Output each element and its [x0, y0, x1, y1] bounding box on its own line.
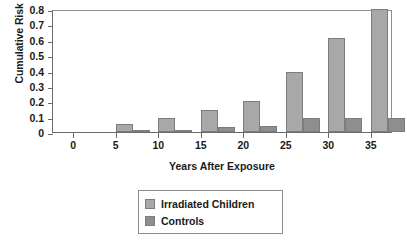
x-axis-tick-label: 35 — [351, 140, 391, 151]
bar-irradiated-children-30 — [328, 38, 345, 132]
y-axis-tick-label: 0.7 — [4, 20, 44, 31]
y-axis-tick-label: 0.8 — [4, 5, 44, 16]
x-axis-tick — [243, 133, 244, 138]
plot-area — [52, 10, 392, 133]
y-axis-tick-label: 0.3 — [4, 82, 44, 93]
x-axis-title: Years After Exposure — [52, 160, 392, 172]
x-axis-tick-label: 0 — [53, 140, 93, 151]
x-axis-tick — [286, 133, 287, 138]
y-axis-tick-label: 0 — [4, 128, 44, 139]
x-axis-tick — [201, 133, 202, 138]
bar-irradiated-children-25 — [286, 72, 303, 132]
y-axis-tick-label: 0.4 — [4, 67, 44, 78]
y-axis-tick-label: 0.5 — [4, 51, 44, 62]
bar-irradiated-children-35 — [371, 9, 388, 132]
x-axis-tick — [158, 133, 159, 138]
bar-irradiated-children-10 — [158, 118, 175, 132]
chart-legend: Irradiated Children Controls — [138, 190, 283, 234]
x-axis-tick-label: 20 — [223, 140, 263, 151]
y-axis-tick — [48, 88, 53, 89]
x-axis-tick-label: 25 — [266, 140, 306, 151]
y-axis-tick-label: 0.6 — [4, 36, 44, 47]
bar-irradiated-children-15 — [201, 110, 218, 132]
bar-irradiated-children-20 — [243, 101, 260, 132]
x-axis-tick — [73, 133, 74, 138]
legend-item-controls: Controls — [145, 213, 275, 228]
x-axis-tick-label: 30 — [308, 140, 348, 151]
x-axis-tick — [116, 133, 117, 138]
x-axis-tick-label: 5 — [96, 140, 136, 151]
bar-controls-25 — [303, 118, 320, 132]
bar-irradiated-children-5 — [116, 124, 133, 132]
chart-figure: Cumulative Risk (%) 05101520253035 Years… — [0, 0, 407, 240]
legend-swatch-icon — [145, 199, 155, 209]
bar-controls-5 — [133, 130, 150, 132]
bar-controls-10 — [175, 130, 192, 132]
y-axis-tick — [48, 26, 53, 27]
bar-controls-15 — [218, 127, 235, 132]
legend-item-irradiated-children: Irradiated Children — [145, 196, 275, 211]
x-axis-tick-label: 10 — [138, 140, 178, 151]
x-axis-tick — [371, 133, 372, 138]
x-axis: 05101520253035 — [52, 133, 392, 157]
bar-controls-20 — [260, 126, 277, 132]
y-axis-tick — [48, 119, 53, 120]
bar-series-container — [53, 11, 391, 132]
bar-controls-35 — [388, 118, 405, 132]
y-axis-tick — [48, 73, 53, 74]
y-axis-tick-label: 0.2 — [4, 97, 44, 108]
x-axis-tick-label: 15 — [181, 140, 221, 151]
y-axis-tick-label: 0.1 — [4, 113, 44, 124]
y-axis-tick — [48, 11, 53, 12]
legend-item-label: Controls — [161, 215, 204, 227]
legend-swatch-icon — [145, 216, 155, 226]
y-axis-tick — [48, 103, 53, 104]
y-axis-tick — [48, 42, 53, 43]
x-axis-tick — [328, 133, 329, 138]
bar-controls-30 — [345, 118, 362, 132]
y-axis-tick — [48, 57, 53, 58]
legend-item-label: Irradiated Children — [161, 198, 254, 210]
